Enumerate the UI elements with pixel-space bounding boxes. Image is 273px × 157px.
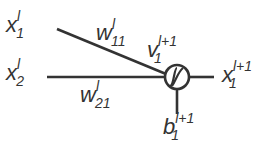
net-input-label: vl+11 <box>147 33 176 66</box>
weight-label-11: wl11 <box>96 16 126 49</box>
neuron-diagram: xl1 xl2 wl11 wl21 vl+11 xl+11 bl+11 <box>0 0 273 157</box>
output-label: xl+11 <box>221 58 251 91</box>
input-label-2: xl2 <box>5 56 24 89</box>
neuron-node <box>165 65 189 89</box>
input-label-1: xl1 <box>5 8 24 41</box>
weight-label-21: wl21 <box>80 78 111 111</box>
bias-label: bl+11 <box>163 110 194 143</box>
